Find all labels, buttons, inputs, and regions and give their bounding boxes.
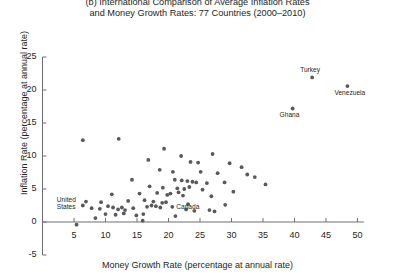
data-point (81, 138, 85, 142)
data-point (231, 190, 235, 194)
data-point (168, 192, 172, 196)
data-point (209, 194, 213, 198)
data-point (180, 179, 184, 183)
data-point (164, 200, 168, 204)
data-point (170, 205, 174, 209)
data-point (104, 212, 108, 216)
data-point (155, 191, 159, 195)
data-point (205, 181, 209, 185)
data-point (189, 160, 193, 164)
x-tick-label: 45 (314, 230, 338, 240)
data-point (213, 210, 217, 214)
data-point (199, 170, 203, 174)
data-point (117, 137, 121, 141)
data-point (211, 152, 215, 156)
data-point (208, 208, 212, 212)
chart-title-line-2: and Money Growth Rates: 77 Countries (20… (0, 8, 395, 19)
chart-title-line-1: (b) International Comparison of Average … (0, 0, 395, 8)
point-annotation: Ghana (280, 111, 300, 118)
data-point (145, 205, 149, 209)
data-point (191, 180, 195, 184)
point-annotation: Turkey (300, 66, 320, 73)
data-point (130, 178, 134, 182)
data-point (196, 161, 200, 165)
data-point (141, 212, 145, 216)
data-point (253, 175, 257, 179)
data-point (75, 223, 79, 227)
data-point (141, 219, 145, 223)
y-tick-label: 0 (13, 216, 37, 226)
data-point (310, 76, 314, 80)
data-point (114, 213, 118, 217)
data-point (245, 173, 249, 177)
data-point (131, 206, 135, 210)
data-point (182, 187, 186, 191)
y-tick-label: 15 (13, 117, 37, 127)
data-point (173, 178, 177, 182)
data-point (161, 186, 165, 190)
data-point (99, 200, 103, 204)
chart-title: (b) International Comparison of Average … (0, 0, 395, 19)
x-tick-label: 30 (220, 230, 244, 240)
data-point (158, 168, 162, 172)
data-point (171, 170, 175, 174)
data-point (158, 206, 162, 210)
data-point (90, 206, 94, 210)
y-tick-label: 25 (13, 51, 37, 61)
data-point (291, 107, 295, 111)
y-tick-label: 20 (13, 84, 37, 94)
x-tick-label: 40 (283, 230, 307, 240)
point-annotation: United States (57, 196, 83, 210)
data-point (94, 216, 98, 220)
data-point (120, 206, 124, 210)
x-tick-label: 10 (94, 230, 118, 240)
data-point (146, 158, 150, 162)
y-tick-label: 10 (13, 150, 37, 160)
data-point (177, 190, 181, 194)
data-point (106, 204, 110, 208)
data-point (186, 179, 190, 183)
data-point (194, 181, 198, 185)
data-point (181, 194, 185, 198)
data-point (201, 188, 205, 192)
data-point (223, 181, 227, 185)
data-point (116, 208, 120, 212)
point-annotation: Venezuela (334, 89, 365, 96)
data-point (264, 182, 268, 186)
x-tick-label: 20 (157, 230, 181, 240)
data-point (179, 154, 183, 158)
data-point (154, 204, 158, 208)
x-tick-label: 50 (346, 230, 370, 240)
y-tick-label: -5 (13, 249, 37, 259)
y-tick-label: 5 (13, 183, 37, 193)
data-point (138, 192, 142, 196)
x-axis-label: Money Growth Rate (percentage at annual … (0, 260, 395, 270)
scatter-chart-figure: (b) International Comparison of Average … (0, 0, 395, 280)
x-tick-label: 35 (251, 230, 275, 240)
data-point (187, 185, 191, 189)
data-point (162, 147, 166, 151)
data-point (150, 204, 154, 208)
x-tick-label: 15 (125, 230, 149, 240)
x-tick-label: 5 (62, 230, 86, 240)
data-point (228, 161, 232, 165)
data-point (110, 192, 114, 196)
data-point (148, 184, 152, 188)
data-point (174, 214, 178, 218)
data-point (151, 200, 155, 204)
data-point (98, 207, 102, 211)
x-tick-label: 25 (188, 230, 212, 240)
data-point (223, 203, 227, 207)
data-point (134, 214, 138, 218)
data-point (143, 198, 147, 202)
point-annotation: Canada (176, 203, 199, 210)
data-point (160, 201, 164, 205)
data-point (84, 200, 88, 204)
data-point (111, 206, 115, 210)
data-point (126, 199, 130, 203)
data-point (346, 84, 350, 88)
data-point (123, 208, 127, 212)
data-point (240, 165, 244, 169)
data-point (175, 186, 179, 190)
data-point (122, 212, 126, 216)
